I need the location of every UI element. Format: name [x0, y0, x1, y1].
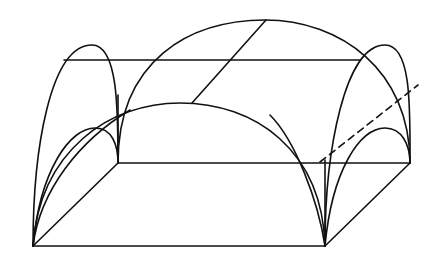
ridge-diagonal-line [192, 20, 266, 103]
right-tall-arch [325, 45, 410, 246]
vault-drawing [0, 0, 439, 265]
base-right-edge [325, 163, 410, 246]
right-groin-curve [270, 115, 325, 246]
diagram-canvas [0, 0, 439, 265]
back-large-arch [118, 20, 410, 163]
front-large-arch [33, 103, 325, 246]
right-small-arch [325, 128, 410, 246]
dashed-ridge-line [320, 85, 418, 162]
base-left-edge [33, 163, 118, 246]
